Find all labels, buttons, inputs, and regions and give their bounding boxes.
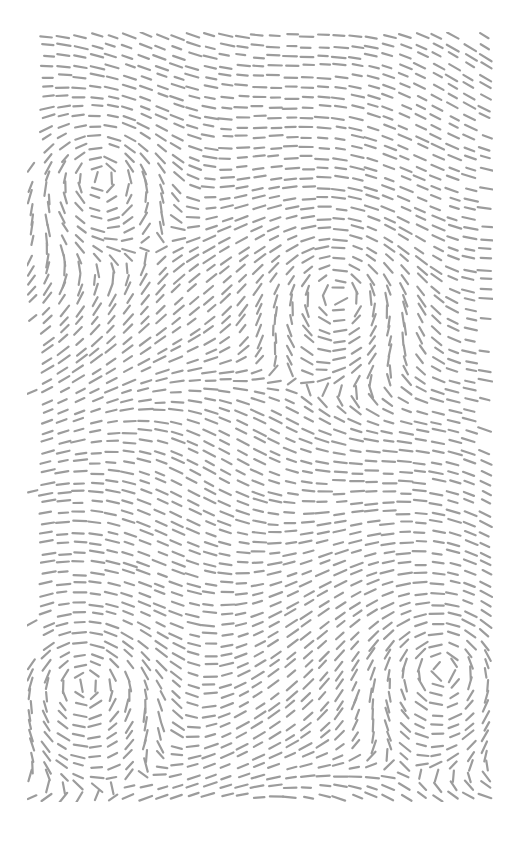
dash-strokes xyxy=(27,32,493,802)
flow-field-artwork xyxy=(27,32,493,802)
